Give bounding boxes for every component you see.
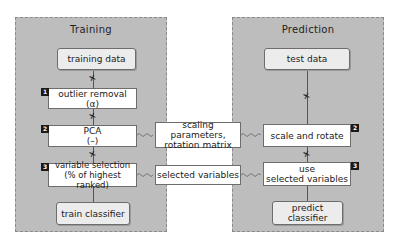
variable-selection-box: variable selection (% of highest ranked) <box>48 163 137 187</box>
step-badge-3: 3 <box>41 163 49 171</box>
training-data-label: training data <box>68 54 126 64</box>
train-classifier-label: train classifier <box>61 209 125 219</box>
scale-rotate-label: scale and rotate <box>271 131 344 141</box>
use-variables-box: use selected variables <box>263 162 351 186</box>
pca-label: PCA <box>84 126 102 136</box>
test-data-label: test data <box>287 54 327 64</box>
scale-rotate-box: scale and rotate <box>263 124 351 147</box>
wavy-link <box>137 131 155 139</box>
training-data-box: training data <box>57 48 136 70</box>
selected-variables-label: selected variables <box>266 174 348 184</box>
pca-box: PCA (–) <box>48 125 137 147</box>
step-badge-3: 3 <box>351 162 359 170</box>
variable-selection-param: (% of highest ranked) <box>49 170 136 190</box>
outlier-removal-param: (α) <box>86 99 99 109</box>
training-title: Training <box>16 24 166 35</box>
test-data-box: test data <box>264 48 350 70</box>
diagram: Training Prediction ✕ ✕ ✕ training data … <box>0 0 397 243</box>
wavy-link <box>137 171 155 179</box>
outlier-removal-label: outlier removal <box>58 89 127 99</box>
predict-classifier-label: predict classifier <box>273 203 342 223</box>
rotation-matrix-label: rotation matrix <box>164 140 232 150</box>
outlier-removal-box: outlier removal (α) <box>48 88 137 109</box>
selected-variables-transfer-label: selected variables <box>157 170 239 180</box>
step-badge-2: 2 <box>351 124 359 132</box>
step-badge-1: 1 <box>41 88 49 96</box>
connector <box>307 186 308 201</box>
pca-param: (–) <box>87 136 99 146</box>
predict-classifier-box: predict classifier <box>272 201 343 225</box>
scaling-params-label: scaling parameters, <box>156 120 240 140</box>
scaling-params-box: scaling parameters, rotation matrix <box>155 122 241 148</box>
train-classifier-box: train classifier <box>56 202 130 225</box>
wavy-link <box>241 131 263 139</box>
wavy-link <box>241 171 263 179</box>
selected-variables-box: selected variables <box>155 165 241 185</box>
prediction-title: Prediction <box>233 24 383 35</box>
step-badge-2: 2 <box>41 125 49 133</box>
use-label: use <box>299 164 315 174</box>
variable-selection-label: variable selection <box>55 160 130 170</box>
